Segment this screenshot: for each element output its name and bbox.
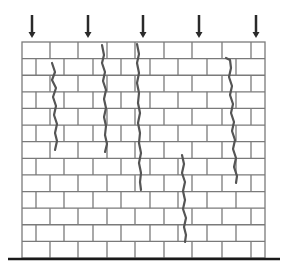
- load-arrow-icon: [29, 15, 36, 38]
- load-arrows: [29, 15, 260, 38]
- load-arrow-icon: [85, 15, 92, 38]
- masonry-wall-diagram: [0, 0, 292, 271]
- load-arrow-icon: [196, 15, 203, 38]
- load-arrow-icon: [140, 15, 147, 38]
- diagram-canvas: [0, 0, 292, 271]
- load-arrow-icon: [253, 15, 260, 38]
